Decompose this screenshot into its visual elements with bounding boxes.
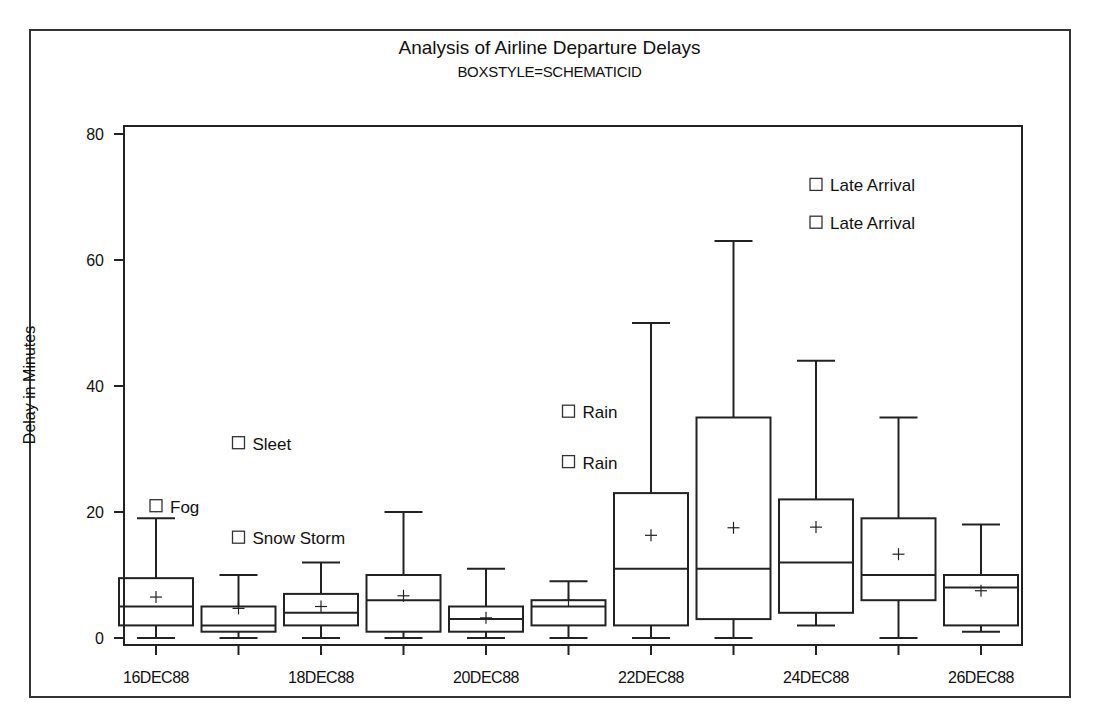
outlier-label: Late Arrival (830, 176, 915, 195)
x-tick-label: 26DEC88 (948, 669, 1014, 686)
y-tick-label: 0 (95, 630, 104, 647)
outlier-marker (233, 531, 245, 543)
outlier-label: Snow Storm (253, 529, 346, 548)
box (614, 493, 688, 625)
outlier-label: Rain (583, 454, 618, 473)
y-tick-label: 80 (86, 126, 104, 143)
box (697, 418, 771, 620)
outlier-marker (563, 405, 575, 417)
y-tick-label: 40 (86, 378, 104, 395)
outlier-marker (150, 500, 162, 512)
box (367, 575, 441, 632)
y-tick-label: 20 (86, 504, 104, 521)
x-tick-label: 18DEC88 (288, 669, 354, 686)
plot-area: 02040608016DEC8818DEC8820DEC8822DEC8824D… (0, 0, 1099, 725)
plot-border (124, 126, 1022, 645)
x-tick-label: 16DEC88 (123, 669, 189, 686)
outlier-label: Fog (170, 498, 199, 517)
box (944, 575, 1018, 625)
x-tick-label: 24DEC88 (783, 669, 849, 686)
outlier-marker (810, 178, 822, 190)
outlier-marker (563, 456, 575, 468)
x-tick-label: 20DEC88 (453, 669, 519, 686)
outlier-label: Late Arrival (830, 214, 915, 233)
x-tick-label: 22DEC88 (618, 669, 684, 686)
y-tick-label: 60 (86, 252, 104, 269)
outlier-marker (233, 437, 245, 449)
outlier-marker (810, 216, 822, 228)
box (779, 499, 853, 612)
outlier-label: Rain (583, 403, 618, 422)
outlier-label: Sleet (253, 435, 292, 454)
